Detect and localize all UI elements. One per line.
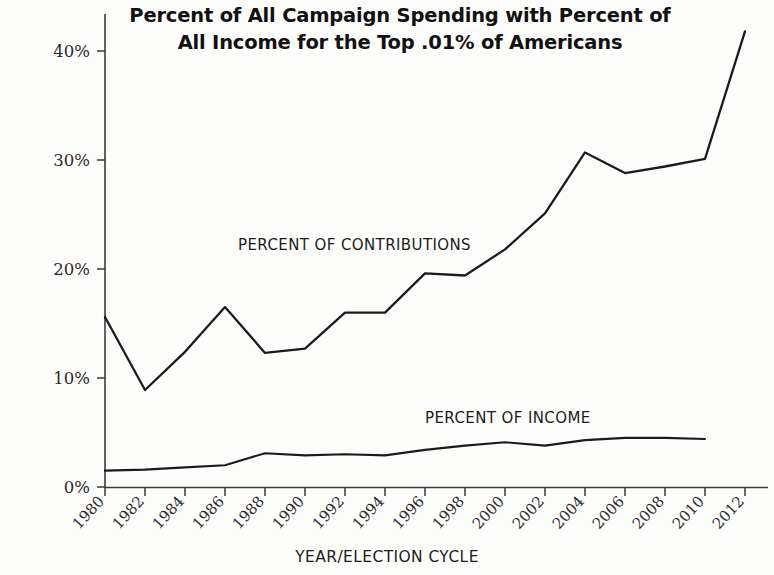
- x-tick-label: 1994: [349, 492, 388, 532]
- series-line-contributions: [105, 31, 745, 390]
- x-tick-label: 2012: [709, 492, 748, 532]
- x-axis-title: YEAR/ELECTION CYCLE: [0, 548, 774, 566]
- x-tick-label: 1990: [269, 492, 308, 532]
- y-tick-label: 0%: [64, 478, 90, 497]
- y-tick-labels: 0%10%20%30%40%: [53, 42, 90, 497]
- y-tick-label: 30%: [53, 151, 90, 170]
- source-note: [8, 566, 768, 575]
- y-axis: 0%10%20%30%40%: [53, 14, 105, 497]
- y-tick-label: 20%: [53, 260, 90, 279]
- x-tick-label: 2004: [549, 492, 588, 532]
- x-tick-label: 1996: [389, 492, 428, 532]
- x-tick-label: 2008: [629, 492, 668, 532]
- x-tick-label: 1982: [109, 492, 148, 532]
- x-tick-label: 1998: [429, 492, 468, 532]
- x-tick-label: 1984: [149, 492, 188, 532]
- y-tick-label: 40%: [53, 42, 90, 61]
- x-tick-label: 2000: [469, 492, 508, 532]
- x-tick-label: 2006: [589, 492, 628, 532]
- chart-figure: Percent of All Campaign Spending with Pe…: [0, 0, 774, 575]
- x-tick-label: 1988: [229, 492, 268, 532]
- x-tick-label: 1986: [189, 492, 228, 532]
- y-tick-marks: [97, 51, 105, 487]
- x-tick-labels: 1980198219841986198819901992199419961998…: [69, 492, 748, 532]
- x-tick-label: 2002: [509, 492, 548, 532]
- chart-plot-area: 0%10%20%30%40% 1980198219841986198819901…: [0, 0, 774, 575]
- y-tick-label: 10%: [53, 369, 90, 388]
- x-tick-label: 1980: [69, 492, 108, 532]
- x-tick-marks: [105, 487, 745, 496]
- x-tick-label: 1992: [309, 492, 348, 532]
- series-line-income: [105, 438, 705, 471]
- x-tick-label: 2010: [669, 492, 708, 532]
- series-label-contributions: PERCENT OF CONTRIBUTIONS: [238, 236, 471, 254]
- series-label-income: PERCENT OF INCOME: [425, 409, 591, 427]
- x-axis: 1980198219841986198819901992199419961998…: [69, 487, 768, 533]
